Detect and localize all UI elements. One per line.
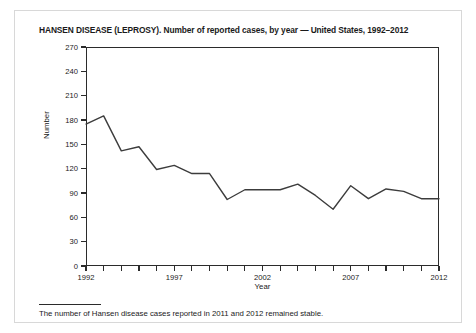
y-axis-tick-mark xyxy=(81,71,86,72)
x-axis-tick-label: 1992 xyxy=(66,273,106,282)
x-axis-tick-mark xyxy=(421,266,422,271)
y-axis-tick-label: 30 xyxy=(70,237,81,246)
y-axis-tick: 60 xyxy=(44,212,86,222)
x-axis-tick-mark xyxy=(103,266,104,271)
line-series xyxy=(86,47,439,266)
x-axis-tick-mark xyxy=(121,266,122,271)
y-axis-tick-label: 0 xyxy=(74,262,81,271)
y-axis-tick-label: 60 xyxy=(70,213,81,222)
x-axis-tick-mark xyxy=(227,266,228,271)
series-line xyxy=(86,116,439,209)
x-axis-tick-label: 2007 xyxy=(331,273,371,282)
plot-area: 0306090120150180210240270199219972002200… xyxy=(86,47,439,266)
y-axis-tick-mark xyxy=(81,119,86,120)
y-axis-tick-mark xyxy=(81,168,86,169)
y-axis-tick-mark xyxy=(81,217,86,218)
x-axis-tick-label: 2012 xyxy=(419,273,459,282)
y-axis-tick: 90 xyxy=(44,188,86,198)
x-axis-tick-mark xyxy=(333,266,334,271)
y-axis-tick-mark xyxy=(81,46,86,47)
y-axis-tick-label: 150 xyxy=(65,140,81,149)
y-axis-tick: 0 xyxy=(44,261,86,271)
x-axis-tick-mark xyxy=(156,266,157,271)
y-axis-tick-label: 120 xyxy=(65,164,81,173)
x-axis-tick-mark xyxy=(191,266,192,271)
x-axis-tick-mark xyxy=(262,266,263,271)
x-axis-tick-mark xyxy=(368,266,369,271)
y-axis-tick-label: 90 xyxy=(70,189,81,198)
page-title: HANSEN DISEASE (LEPROSY). Number of repo… xyxy=(39,25,449,35)
x-axis-tick-mark xyxy=(297,266,298,271)
figure-card: HANSEN DISEASE (LEPROSY). Number of repo… xyxy=(14,10,462,323)
x-axis-tick-mark xyxy=(209,266,210,271)
y-axis-tick-label: 210 xyxy=(65,91,81,100)
footnote: The number of Hansen disease cases repor… xyxy=(39,309,449,318)
y-axis-tick-mark xyxy=(81,241,86,242)
x-axis-tick-mark xyxy=(438,266,439,271)
x-axis-tick-mark xyxy=(138,266,139,271)
y-axis-tick: 30 xyxy=(44,237,86,247)
x-axis-tick-mark xyxy=(315,266,316,271)
footnote-divider xyxy=(39,304,101,305)
x-axis-tick-mark xyxy=(385,266,386,271)
x-axis-tick-mark xyxy=(280,266,281,271)
y-axis-tick-label: 180 xyxy=(65,116,81,125)
y-axis-tick-label: 240 xyxy=(65,67,81,76)
y-axis-tick-mark xyxy=(81,144,86,145)
x-axis-tick-label: 2002 xyxy=(243,273,283,282)
x-axis-tick-mark xyxy=(403,266,404,271)
y-axis-tick-mark xyxy=(81,192,86,193)
y-axis-tick-label: 270 xyxy=(65,43,81,52)
x-axis-tick-mark xyxy=(350,266,351,271)
y-axis-tick: 180 xyxy=(44,115,86,125)
x-axis-tick-mark xyxy=(244,266,245,271)
y-axis-tick: 210 xyxy=(44,91,86,101)
y-axis-tick: 120 xyxy=(44,164,86,174)
x-axis-tick-label: 1997 xyxy=(154,273,194,282)
x-axis-label: Year xyxy=(86,282,439,291)
y-axis-tick: 270 xyxy=(44,42,86,52)
y-axis-tick: 150 xyxy=(44,139,86,149)
y-axis-tick-mark xyxy=(81,95,86,96)
x-axis-tick-mark xyxy=(174,266,175,271)
x-axis-tick-mark xyxy=(85,266,86,271)
y-axis-tick: 240 xyxy=(44,66,86,76)
